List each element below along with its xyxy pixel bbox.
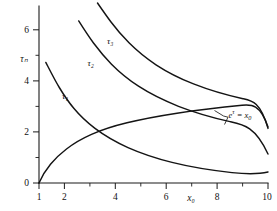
y-tick-label-0: 0 <box>24 178 29 188</box>
x-tick-label-4: 4 <box>113 192 118 202</box>
x-tick-label-1: 1 <box>37 192 42 202</box>
curve-label-tau-3: τ₃ <box>107 36 113 46</box>
x-tick-label-8: 8 <box>215 192 220 202</box>
annotation-e-tau-equals-x0: eτ = x0 <box>229 108 253 121</box>
x-axis-major-ticks <box>39 183 268 189</box>
y-tick-label-2: 2 <box>24 127 29 137</box>
y-tick-label-6: 6 <box>24 25 29 35</box>
curve-label-tau-1: τ₁ <box>62 91 68 101</box>
x-tick-label-6: 6 <box>164 192 169 202</box>
chart-figure: 0 2 4 6 1 2 4 6 8 10 τₙ x₀ τ₁ τ₂ τ₃ eτ =… <box>0 0 277 211</box>
y-axis-title: τₙ <box>20 54 27 64</box>
annotation-leader-line <box>215 111 229 125</box>
x-tick-label-10: 10 <box>262 192 272 202</box>
x-tick-label-2: 2 <box>62 192 67 202</box>
chart-svg: 0 2 4 6 1 2 4 6 8 10 τₙ x₀ τ₁ τ₂ τ₃ eτ =… <box>0 0 277 211</box>
annotation-subscript-zero: 0 <box>248 114 252 121</box>
curve-label-tau-2: τ₂ <box>88 58 94 68</box>
x-axis-title: x₀ <box>186 193 195 203</box>
y-tick-label-4: 4 <box>24 76 29 86</box>
annotation-middle: = x <box>235 110 249 120</box>
